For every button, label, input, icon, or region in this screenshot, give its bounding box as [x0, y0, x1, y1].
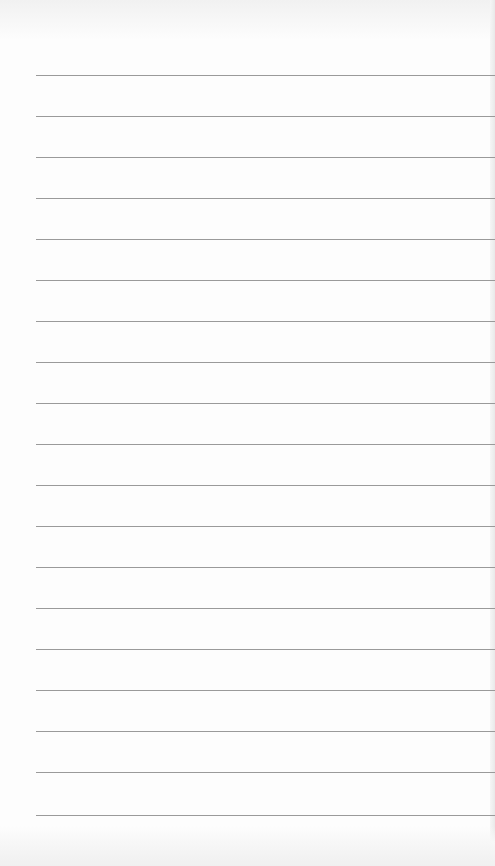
writing-line-1[interactable]: [36, 35, 495, 75]
writing-line-3[interactable]: [36, 117, 495, 157]
writing-line-17[interactable]: [36, 691, 495, 731]
writing-line-2[interactable]: [36, 76, 495, 116]
writing-line-15[interactable]: [36, 609, 495, 649]
rule-line: [36, 815, 495, 816]
writing-line-6[interactable]: [36, 240, 495, 280]
writing-line-7[interactable]: [36, 281, 495, 321]
writing-line-18[interactable]: [36, 732, 495, 772]
writing-line-10[interactable]: [36, 404, 495, 444]
writing-line-14[interactable]: [36, 568, 495, 608]
top-paper-texture: [0, 0, 495, 40]
rule-line: [36, 772, 495, 773]
writing-line-11[interactable]: [36, 445, 495, 485]
writing-line-19[interactable]: [36, 775, 495, 815]
writing-line-8[interactable]: [36, 322, 495, 362]
writing-line-9[interactable]: [36, 363, 495, 403]
writing-line-12[interactable]: [36, 486, 495, 526]
writing-line-5[interactable]: [36, 199, 495, 239]
bottom-paper-texture: [0, 826, 495, 866]
writing-line-16[interactable]: [36, 650, 495, 690]
writing-line-4[interactable]: [36, 158, 495, 198]
writing-line-13[interactable]: [36, 527, 495, 567]
ruled-notepad-page[interactable]: [0, 0, 495, 866]
